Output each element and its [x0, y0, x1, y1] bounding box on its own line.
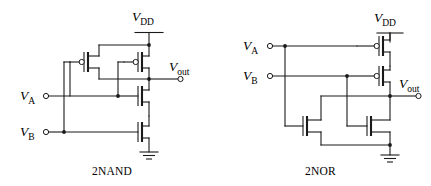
nor-output-label: Vout [399, 77, 419, 91]
nor-input-b-net [267, 73, 349, 126]
nor-nmos-a [285, 96, 321, 145]
nor-input-b-label: VB [243, 69, 258, 83]
nor-ground-symbol [381, 145, 399, 162]
nand-input-b-label: VB [20, 125, 35, 139]
nor-pmos-b [347, 66, 390, 96]
nor-nmos-b [347, 96, 390, 145]
nor-pmos-a [357, 33, 390, 66]
nand-output-label: Vout [169, 60, 189, 74]
nor-output-net [390, 93, 421, 98]
cmos-gates-figure: VDD VA VB Vout 2NAND VDD VA VB Vout 2NOR [0, 0, 431, 186]
nor-caption: 2NOR [305, 166, 336, 178]
nand-vdd-label: VDD [132, 10, 154, 24]
nand-input-a-label: VA [20, 89, 35, 103]
nor-vdd-label: VDD [374, 11, 396, 25]
nand-caption: 2NAND [92, 166, 132, 178]
nor-circuit-svg [0, 0, 431, 186]
nor-input-a-net [267, 43, 357, 126]
nor-input-a-label: VA [243, 39, 258, 53]
